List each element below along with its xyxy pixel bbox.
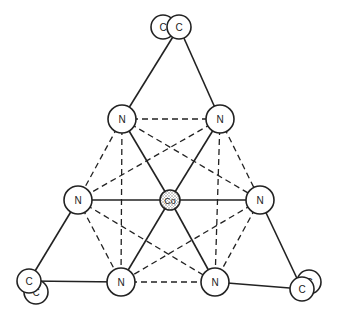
carbon-atom-label: C	[298, 284, 305, 295]
dashed-edge-N4-N5	[121, 200, 260, 282]
nitrogen-atom-label: N	[211, 277, 218, 288]
atoms: CCCCCCNNNNNNCo	[17, 15, 321, 304]
nitrogen-atom-label: N	[74, 195, 81, 206]
nitrogen-atom-label: N	[118, 114, 125, 125]
carbon-atom-label: C	[175, 22, 182, 33]
nitrogen-atom: N	[64, 186, 92, 214]
nitrogen-atom: N	[206, 105, 234, 133]
nitrogen-atom: N	[108, 105, 136, 133]
carbon-atom: C	[167, 15, 191, 39]
cobalt-atom: Co	[160, 190, 180, 210]
dashed-edge-N2-N3	[78, 119, 220, 200]
carbon-atom-label: C	[159, 22, 166, 33]
nitrogen-atom-label: N	[117, 277, 124, 288]
nitrogen-atom: N	[246, 186, 274, 214]
nitrogen-atom-label: N	[256, 195, 263, 206]
carbon-atom: C	[290, 277, 314, 301]
nitrogen-atom: N	[107, 268, 135, 296]
cobalt-atom-label: Co	[164, 196, 176, 206]
molecule-diagram: CCCCCCNNNNNNCo	[0, 0, 338, 317]
nitrogen-atom: N	[201, 268, 229, 296]
nitrogen-atom-label: N	[216, 114, 223, 125]
dashed-edge-N3-N6	[78, 200, 215, 282]
bond-N1-C1	[122, 27, 179, 119]
carbon-atom: C	[17, 269, 41, 293]
carbon-atom-label: C	[25, 276, 32, 287]
bond-N2-C1	[179, 27, 220, 119]
chemical-bonds	[29, 27, 302, 289]
